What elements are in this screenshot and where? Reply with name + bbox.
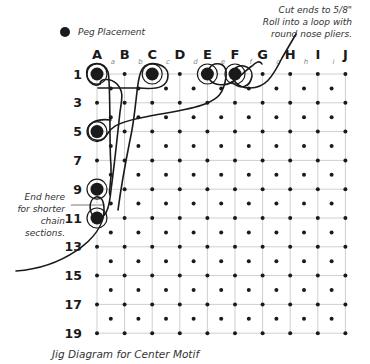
grid-dot: [288, 158, 292, 162]
grid-dot: [164, 144, 168, 148]
grid-dot: [150, 274, 154, 278]
grid-dot: [330, 288, 334, 292]
grid-dot: [219, 288, 223, 292]
cut-ends-note-line-3: round nose pliers.: [271, 29, 352, 39]
grid-dot: [136, 259, 140, 263]
grid-dot: [164, 317, 168, 321]
row-label: 15: [65, 268, 82, 283]
grid-dot: [150, 101, 154, 105]
grid-dot: [178, 302, 182, 306]
grid-dot: [219, 202, 223, 206]
grid-dot: [330, 115, 334, 119]
row-label: 5: [73, 124, 82, 139]
row-labels: 135791113151719: [65, 67, 82, 341]
row-label: 17: [65, 297, 82, 312]
grid-dot: [205, 302, 209, 306]
peg-icon: [91, 212, 104, 225]
grid-dot: [95, 331, 99, 335]
grid-dot: [123, 101, 127, 105]
grid-dot: [288, 245, 292, 249]
grid-dot: [288, 302, 292, 306]
column-label: I: [315, 47, 320, 62]
grid-dot: [192, 202, 196, 206]
grid-dot: [233, 130, 237, 134]
grid-dot: [316, 130, 320, 134]
row-label: 19: [65, 326, 82, 341]
grid-dot: [150, 216, 154, 220]
grid-dot: [233, 158, 237, 162]
sub-column-label: d: [193, 58, 198, 66]
grid-dot: [192, 144, 196, 148]
grid-dot: [288, 130, 292, 134]
grid-dot: [261, 331, 265, 335]
column-label: D: [174, 47, 185, 62]
grid-dot: [150, 245, 154, 249]
grid-dot: [233, 216, 237, 220]
grid-dot: [330, 202, 334, 206]
end-here-note-line-2: for shorter: [17, 204, 66, 214]
column-label: B: [120, 47, 130, 62]
grid-dot: [192, 317, 196, 321]
grid-dot: [330, 173, 334, 177]
grid-dot: [330, 230, 334, 234]
grid-dot: [233, 101, 237, 105]
end-here-note-line-3: chain: [41, 216, 66, 226]
grid-dot: [192, 230, 196, 234]
grid-dot: [343, 130, 347, 134]
grid-dot: [205, 158, 209, 162]
grid-dot: [343, 274, 347, 278]
grid-dot: [302, 144, 306, 148]
grid-dot: [219, 173, 223, 177]
row-label: 9: [73, 182, 82, 197]
grid-dot: [343, 72, 347, 76]
grid-dot: [205, 331, 209, 335]
column-label: E: [203, 47, 212, 62]
grid-dot: [123, 187, 127, 191]
grid-dot: [205, 245, 209, 249]
grid-dot: [247, 317, 251, 321]
grid-dot: [205, 187, 209, 191]
grid-dot: [274, 86, 278, 90]
grid-dot: [316, 274, 320, 278]
grid-dot: [136, 173, 140, 177]
grid-dot: [164, 115, 168, 119]
grid-dot: [123, 331, 127, 335]
grid-dot: [330, 317, 334, 321]
grid-dot: [219, 317, 223, 321]
grid-dot: [274, 115, 278, 119]
column-label: A: [92, 47, 102, 62]
grid-dot: [136, 202, 140, 206]
peg-icon: [91, 125, 104, 138]
grid-dot: [178, 101, 182, 105]
grid-dot: [247, 259, 251, 263]
sub-column-label: a: [111, 58, 115, 66]
grid-dot: [164, 86, 168, 90]
grid-dot: [150, 130, 154, 134]
grid-dot: [302, 259, 306, 263]
column-label: C: [147, 47, 157, 62]
end-here-note-line-1: End here: [25, 192, 66, 202]
grid-dot: [136, 144, 140, 148]
row-label: 3: [73, 95, 82, 110]
grid-dot: [316, 216, 320, 220]
grid-dot: [136, 317, 140, 321]
grid-dot: [178, 187, 182, 191]
end-here-note-line-4: sections.: [25, 228, 65, 238]
grid-dot: [343, 101, 347, 105]
grid-dot: [261, 72, 265, 76]
grid-dot: [95, 101, 99, 105]
column-labels: ABCDEFGHIJabcdefghi: [92, 47, 348, 66]
grid-dot: [192, 86, 196, 90]
grid-dot: [274, 144, 278, 148]
grid-dot: [178, 158, 182, 162]
grid-dot: [233, 302, 237, 306]
grid-dot: [274, 230, 278, 234]
grid-dot: [261, 274, 265, 278]
grid-dot: [343, 158, 347, 162]
grid-dot: [261, 245, 265, 249]
grid-dot: [330, 144, 334, 148]
grid-dot: [330, 86, 334, 90]
grid-dot: [123, 216, 127, 220]
grid-dot: [288, 101, 292, 105]
grid-dot: [302, 202, 306, 206]
